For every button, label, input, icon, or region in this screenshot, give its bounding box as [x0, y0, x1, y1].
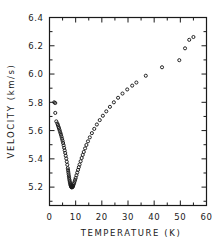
y-tick-label: 6.4: [28, 13, 43, 23]
y-tick-label: 5.6: [28, 126, 43, 136]
y-tick-label: 6.0: [28, 69, 43, 79]
x-axis-label: TEMPERATURE (K): [80, 228, 182, 238]
x-tick-label: 40: [148, 212, 160, 222]
y-axis-label: VELOCITY (km/s): [6, 64, 16, 159]
y-tick-label: 5.2: [28, 182, 43, 192]
y-tick-label: 5.8: [28, 98, 43, 108]
x-tick-label: 0: [46, 212, 52, 222]
figure-scatter-velocity-vs-temperature: 0102030405060 5.25.45.65.86.06.26.4 TEMP…: [0, 0, 219, 242]
x-tick-label: 30: [122, 212, 134, 222]
x-tick-label: 50: [174, 212, 186, 222]
x-tick-label: 60: [200, 212, 212, 222]
x-tick-label: 20: [96, 212, 108, 222]
x-tick-label: 10: [70, 212, 82, 222]
y-tick-label: 5.4: [28, 154, 43, 164]
y-tick-label: 6.2: [28, 41, 43, 51]
chart-canvas: 0102030405060 5.25.45.65.86.06.26.4 TEMP…: [0, 0, 219, 242]
